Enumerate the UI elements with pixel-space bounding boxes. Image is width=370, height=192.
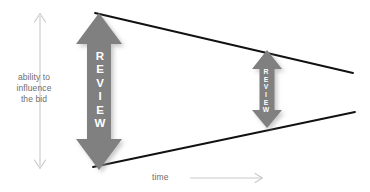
x-axis-label: time: [152, 172, 186, 183]
cone-lines: [93, 13, 355, 167]
cone-lower-line: [93, 112, 355, 167]
diagram-canvas: ability to influence the bid time REVIEW…: [0, 0, 370, 192]
x-axis-arrow: [190, 174, 263, 183]
cone-upper-line: [95, 13, 353, 73]
y-axis-label: ability to influence the bid: [2, 72, 66, 105]
review-arrow-secondary[interactable]: [252, 50, 282, 128]
review-arrow-primary[interactable]: [76, 13, 122, 170]
